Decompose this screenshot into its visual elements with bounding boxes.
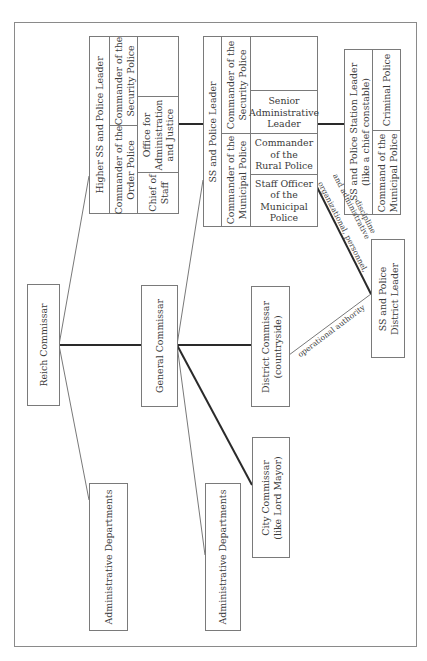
reich-commissar-label: Reich Commissar — [38, 303, 50, 386]
higher-ss-title: Higher SS and Police Leader — [94, 56, 106, 193]
admin-departments-2-box: Administrative Departments — [205, 483, 241, 631]
district-commissar-box: District Commissar (countryside) — [251, 286, 290, 407]
station-leader-box: SS and Police Station Leader (like a chi… — [344, 49, 401, 215]
chief-of-staff-label: Chief of Staff — [147, 174, 170, 211]
commander-security-police-label: Commander of the Security Police — [112, 37, 135, 126]
commander-security-police-cell: Commander of the Security Police — [110, 37, 138, 126]
district-leader-label: SS and Police District Leader — [377, 263, 400, 335]
senior-admin-leader-label: Senior Administrative Leader — [249, 95, 319, 130]
ss-police-leader-title: SS and Police Leader — [207, 81, 219, 182]
chief-of-staff-cell: Chief of Staff — [138, 173, 178, 213]
spl-commander-security-police-cell: Commander of the Security Police — [222, 37, 251, 134]
senior-admin-leader-cell: Senior Administrative Leader — [251, 91, 317, 134]
city-commissar-label: City Commissar (like Lord Mayor) — [260, 456, 283, 539]
district-commissar-label: District Commissar (countryside) — [259, 301, 282, 393]
commander-rural-police-label: Commander of the Rural Police — [255, 137, 313, 172]
station-leader-title-cell: SS and Police Station Leader (like a chi… — [345, 50, 373, 214]
general-commissar-label: General Commissar — [154, 299, 166, 393]
district-leader-box: SS and Police District Leader — [371, 239, 405, 358]
commander-order-police-cell: Commander of the Order Police — [110, 126, 138, 213]
higher-ss-empty-cell — [138, 37, 178, 97]
higher-ss-title-cell: Higher SS and Police Leader — [90, 37, 110, 213]
commander-order-police-label: Commander of the Order Police — [112, 125, 135, 214]
spl-commander-municipal-police-label: Commander of the Municipal Police — [225, 136, 248, 225]
admin-departments-1-label: Administrative Departments — [103, 490, 115, 625]
admin-departments-1-box: Administrative Departments — [89, 483, 128, 631]
command-municipal-police-cell: Command of the Municipal Police — [373, 131, 400, 214]
criminal-police-label: Criminal Police — [381, 54, 393, 127]
general-commissar-box: General Commissar — [141, 285, 178, 407]
admin-departments-2-label: Administrative Departments — [217, 490, 229, 625]
office-admin-justice-cell: Office for Administration and Justice — [138, 97, 178, 173]
command-municipal-police-label: Command of the Municipal Police — [375, 133, 398, 212]
spl-commander-municipal-police-cell: Commander of the Municipal Police — [222, 134, 251, 226]
spl-commander-security-police-label: Commander of the Security Police — [225, 41, 248, 130]
ss-police-leader-box: SS and Police Leader Commander of the Se… — [203, 36, 318, 227]
commander-rural-police-cell: Commander of the Rural Police — [251, 134, 317, 175]
higher-ss-police-leader-box: Higher SS and Police Leader Commander of… — [89, 36, 179, 214]
office-admin-justice-label: Office for Administration and Justice — [141, 99, 176, 170]
criminal-police-cell: Criminal Police — [373, 50, 400, 131]
city-commissar-box: City Commissar (like Lord Mayor) — [252, 437, 290, 558]
staff-officer-municipal-cell: Staff Officer of the Municipal Police — [251, 175, 317, 226]
ss-police-leader-title-cell: SS and Police Leader — [204, 37, 222, 226]
staff-officer-municipal-label: Staff Officer of the Municipal Police — [255, 178, 313, 224]
station-leader-title: SS and Police Station Leader (like a chi… — [347, 63, 370, 201]
reich-commissar-box: Reich Commissar — [27, 284, 60, 406]
spl-empty-cell — [251, 37, 317, 91]
